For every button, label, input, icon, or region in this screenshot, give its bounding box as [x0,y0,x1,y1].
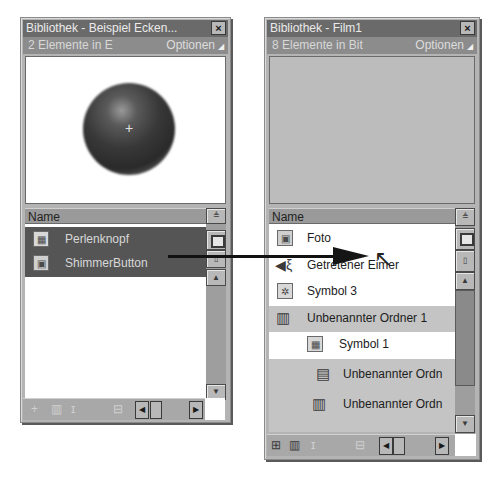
narrow-view-button[interactable]: ▯ [455,250,475,272]
properties-icon[interactable]: ɪ [311,438,315,452]
close-icon[interactable]: × [211,21,226,35]
drag-arrow-head [333,247,369,265]
right-vertical-scrollbar[interactable]: ≜ ▯ ▲ ▼ [455,208,475,434]
right-title-bar[interactable]: Bibliothek - Film1 × [267,20,477,37]
bitmap-icon: ▣ [277,230,293,246]
new-folder-icon[interactable]: ▥ [289,438,300,452]
left-column-header-name[interactable]: Name [25,208,206,224]
scroll-left-icon: ◀ [139,405,145,414]
scroll-down-button[interactable]: ▼ [455,415,475,433]
scroll-down-icon: ▼ [212,387,220,396]
left-title-bar[interactable]: Bibliothek - Beispiel Ecken... × [23,20,228,37]
folder-icon: ▥ [275,310,291,326]
button-icon: ▣ [33,255,49,271]
scroll-right-icon: ▶ [439,441,445,450]
graphic-symbol-icon: ✲ [277,283,293,299]
right-options-menu[interactable]: Optionen◢ [415,37,473,54]
sort-icon: ≜ [462,212,469,221]
new-symbol-icon[interactable]: + [31,402,38,416]
scroll-right-icon: ▶ [193,405,199,414]
left-title: Bibliothek - Beispiel Ecken... [26,21,177,35]
list-item-label: ShimmerButton [65,251,148,275]
left-preview-area: + [25,56,226,204]
delete-icon[interactable]: ⊟ [113,402,123,416]
right-title: Bibliothek - Film1 [270,21,362,35]
column-header-label: Name [28,210,60,224]
scroll-up-button[interactable]: ▲ [455,272,475,290]
folder-open-icon: ▤ [315,366,331,382]
list-item-label: Symbol 1 [339,332,389,356]
sort-order-button[interactable]: ≜ [206,208,226,224]
options-triangle-icon: ◢ [218,42,224,51]
delete-icon[interactable]: ⊟ [355,438,365,452]
scroll-left-button[interactable]: ◀ [379,437,393,455]
new-symbol-icon[interactable]: ⊞ [271,438,281,452]
list-item[interactable]: ▦ Symbol 1 [269,332,455,359]
symbol-icon: ▦ [33,231,49,247]
horizontal-scroll-thumb[interactable] [393,437,405,455]
properties-icon[interactable]: ɪ [71,402,75,416]
left-options-label: Optionen [166,38,215,52]
drag-cursor-icon: ↖ [374,248,392,270]
list-item-folder[interactable]: ▥ Unbenannter Ordner 1 [269,306,455,332]
sort-icon: ≜ [213,211,220,220]
close-icon[interactable]: × [460,21,475,35]
wide-view-button[interactable] [455,228,475,250]
left-info-bar: 2 Elemente in E Optionen◢ [23,37,228,54]
scroll-right-button[interactable]: ▶ [435,437,449,455]
list-item-label: Unbenannter Ordner 1 [307,306,427,330]
left-item-count: 2 Elemente in E [28,38,113,52]
right-preview-area [269,56,475,204]
left-vertical-scrollbar[interactable]: ≜ ▯ ▲ ▼ [206,208,226,400]
scroll-up-button[interactable]: ▲ [206,269,226,286]
library-panel-left: Bibliothek - Beispiel Ecken... × 2 Eleme… [20,17,231,423]
left-footer-toolbar: + ▥ ɪ ⊟ ◀ ▶ [23,398,208,420]
new-folder-icon[interactable]: ▥ [51,402,62,416]
list-item-label: Symbol 3 [307,279,357,303]
list-item[interactable]: ▦ Perlenknopf [25,227,206,251]
list-item-folder[interactable]: ▤ Unbenannter Ordn [269,359,455,389]
scroll-up-icon: ▲ [212,273,220,282]
horizontal-scroll-thumb[interactable] [150,401,162,419]
vertical-scroll-thumb[interactable] [455,290,475,386]
sound-icon: ◀ξ [275,257,291,273]
scroll-left-icon: ◀ [383,441,389,450]
right-column-header-name[interactable]: Name [269,208,455,224]
column-header-label: Name [272,210,304,224]
registration-point-icon: + [125,121,133,135]
right-item-count: 8 Elemente in Bit [272,38,363,52]
scroll-down-icon: ▼ [461,419,469,428]
right-info-bar: 8 Elemente in Bit Optionen◢ [267,37,477,54]
scroll-left-button[interactable]: ◀ [135,401,149,419]
list-item-label: Foto [307,226,331,250]
scroll-corner [455,434,476,456]
narrow-view-button[interactable]: ▯ [206,250,226,268]
wide-view-button[interactable] [206,230,226,250]
list-item-label: Unbenannter Ordn [343,389,442,419]
right-options-label: Optionen [415,38,464,52]
folder-icon: ▥ [311,396,327,412]
list-item-label: Perlenknopf [65,227,129,251]
symbol-icon: ▦ [307,336,323,352]
left-item-list: ▦ Perlenknopf ▣ ShimmerButton [25,224,206,398]
list-item-label: Unbenannter Ordn [343,359,442,389]
scroll-up-icon: ▲ [461,276,469,285]
options-triangle-icon: ◢ [467,42,473,51]
scroll-corner [205,398,225,420]
list-item-folder[interactable]: ▥ Unbenannter Ordn [269,389,455,432]
right-footer-toolbar: ⊞ ▥ ɪ ⊟ ◀ ▶ [267,434,457,456]
sort-order-button[interactable]: ≜ [455,208,475,226]
drag-arrow-line [168,255,338,258]
list-item[interactable]: ✲ Symbol 3 [269,279,455,303]
scroll-right-button[interactable]: ▶ [189,401,203,419]
library-panel-right: Bibliothek - Film1 × 8 Elemente in Bit O… [264,17,480,460]
left-options-menu[interactable]: Optionen◢ [166,37,224,54]
